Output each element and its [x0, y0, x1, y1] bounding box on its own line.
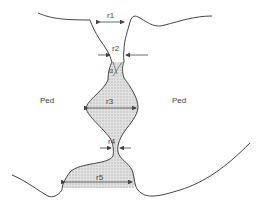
r5-subscript: 5: [99, 173, 103, 182]
r1-subscript: 1: [110, 11, 114, 20]
r3-subscript: 3: [109, 97, 113, 106]
pore-wall-right: [118, 22, 250, 196]
alpha-label: α: [109, 67, 113, 74]
right-ped-label: Ped: [172, 97, 186, 105]
r4-label: r4: [108, 138, 115, 146]
r1-label: r1: [107, 12, 114, 20]
r3-label: r3: [106, 98, 113, 106]
top-surface-left: [38, 13, 90, 20]
left-ped-label: Ped: [40, 97, 54, 105]
r2-subscript: 2: [115, 44, 119, 53]
r2-label: r2: [112, 45, 119, 53]
r5-label: r5: [96, 174, 103, 182]
top-surface-right: [130, 16, 212, 26]
r4-subscript: 4: [111, 137, 115, 146]
